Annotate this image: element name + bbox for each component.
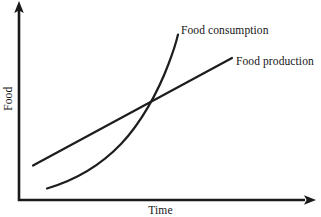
series-food-consumption-curve [47, 35, 178, 189]
x-axis-label: Time [0, 205, 321, 217]
x-axis-arrow-icon [304, 195, 316, 205]
axes-group [14, 1, 316, 205]
chart-canvas [0, 0, 321, 217]
chart-container: Food consumption Food production Time Fo… [0, 0, 321, 217]
series-label-food-production: Food production [236, 56, 314, 68]
y-axis-label: Food [3, 81, 15, 117]
series-label-food-consumption: Food consumption [181, 25, 269, 37]
series-group [33, 35, 232, 189]
axis-lines [19, 8, 305, 200]
series-food-production-line [33, 58, 232, 166]
